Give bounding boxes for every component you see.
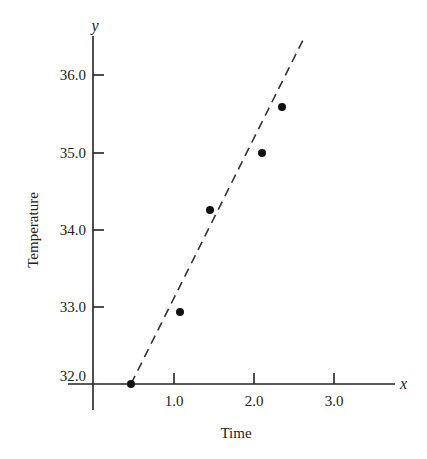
x-ticks (174, 373, 334, 384)
y-tick-label: 32.0 (60, 368, 86, 384)
x-tick-label: 1.0 (165, 393, 184, 409)
data-point (176, 308, 184, 316)
x-tick-label: 3.0 (325, 393, 344, 409)
data-point (127, 380, 135, 388)
y-tick-label: 35.0 (60, 145, 86, 161)
x-tick-label: 2.0 (245, 393, 264, 409)
y-tick-label: 33.0 (60, 299, 86, 315)
data-point (206, 206, 214, 214)
y-axis-variable: y (89, 17, 99, 35)
data-points (127, 103, 286, 388)
scatter-chart: 36.0 35.0 34.0 33.0 32.0 1.0 2.0 3.0 y x… (0, 0, 427, 459)
y-ticks (93, 75, 104, 307)
data-point (278, 103, 286, 111)
x-axis-title: Time (220, 425, 251, 441)
fitted-trend-line (131, 40, 303, 384)
data-point (258, 149, 266, 157)
y-axis-title: Temperature (25, 192, 41, 268)
y-tick-label: 36.0 (60, 67, 86, 83)
x-axis-variable: x (399, 375, 407, 392)
y-tick-label: 34.0 (60, 222, 86, 238)
